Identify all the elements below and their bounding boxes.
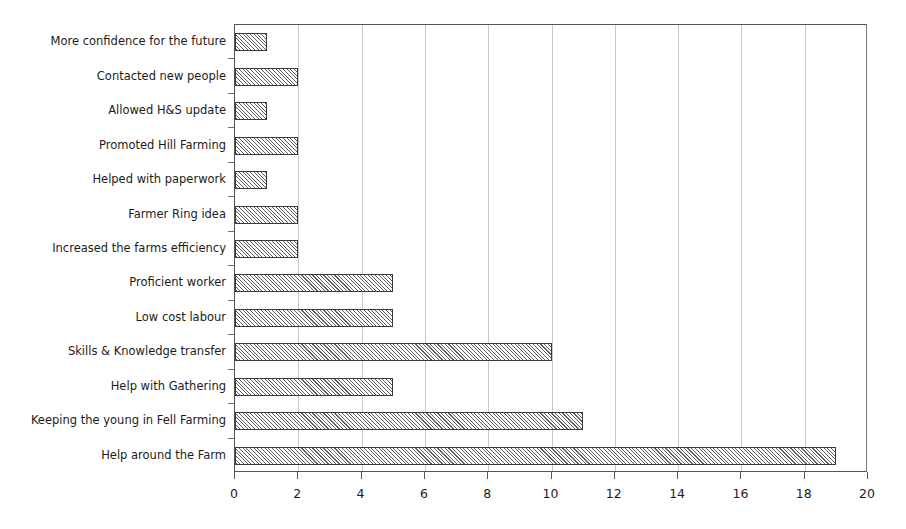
category-label: Contacted new people xyxy=(0,69,226,83)
bar xyxy=(235,378,393,396)
bar xyxy=(235,309,393,327)
x-axis-tick-label: 16 xyxy=(720,486,760,501)
gridline xyxy=(488,25,489,471)
bar xyxy=(235,274,393,292)
x-axis-tick xyxy=(614,472,615,479)
x-axis-tick-label: 10 xyxy=(531,486,571,501)
category-label: Increased the farms efficiency xyxy=(0,241,226,255)
plot-area xyxy=(234,24,867,472)
bar xyxy=(235,102,267,120)
bar xyxy=(235,33,267,51)
x-axis-tick-label: 6 xyxy=(404,486,444,501)
gridline xyxy=(678,25,679,471)
category-label: More confidence for the future xyxy=(0,34,226,48)
bar xyxy=(235,171,267,189)
x-axis-tick-label: 18 xyxy=(784,486,824,501)
category-label: Low cost labour xyxy=(0,310,226,324)
category-label: Helped with paperwork xyxy=(0,172,226,186)
gridline xyxy=(362,25,363,471)
gridline xyxy=(615,25,616,471)
bar xyxy=(235,412,583,430)
bar xyxy=(235,343,552,361)
gridline xyxy=(425,25,426,471)
x-axis-tick-label: 2 xyxy=(277,486,317,501)
x-axis-tick-label: 8 xyxy=(467,486,507,501)
bar xyxy=(235,206,298,224)
x-axis-tick xyxy=(867,472,868,479)
x-axis-tick-label: 12 xyxy=(594,486,634,501)
x-axis-tick-label: 0 xyxy=(214,486,254,501)
x-axis-tick xyxy=(361,472,362,479)
x-axis-tick-label: 4 xyxy=(341,486,381,501)
category-label: Help with Gathering xyxy=(0,379,226,393)
x-axis-tick-label: 20 xyxy=(847,486,887,501)
category-label: Skills & Knowledge transfer xyxy=(0,344,226,358)
gridline xyxy=(741,25,742,471)
bar xyxy=(235,137,298,155)
x-axis-tick xyxy=(740,472,741,479)
x-axis-tick xyxy=(804,472,805,479)
gridline xyxy=(552,25,553,471)
x-axis-tick xyxy=(677,472,678,479)
x-axis-tick xyxy=(234,472,235,479)
category-label: Help around the Farm xyxy=(0,448,226,462)
category-label: Farmer Ring idea xyxy=(0,207,226,221)
category-label: Keeping the young in Fell Farming xyxy=(0,413,226,427)
bar-chart: More confidence for the futureContacted … xyxy=(0,0,906,529)
x-axis-tick xyxy=(551,472,552,479)
bar xyxy=(235,240,298,258)
x-axis-tick xyxy=(297,472,298,479)
bar xyxy=(235,68,298,86)
gridline xyxy=(805,25,806,471)
gridline xyxy=(298,25,299,471)
category-label: Proficient worker xyxy=(0,275,226,289)
x-axis-tick-label: 14 xyxy=(657,486,697,501)
category-label: Allowed H&S update xyxy=(0,103,226,117)
x-axis-tick xyxy=(424,472,425,479)
x-axis-tick xyxy=(487,472,488,479)
bar xyxy=(235,447,836,465)
category-label: Promoted Hill Farming xyxy=(0,138,226,152)
